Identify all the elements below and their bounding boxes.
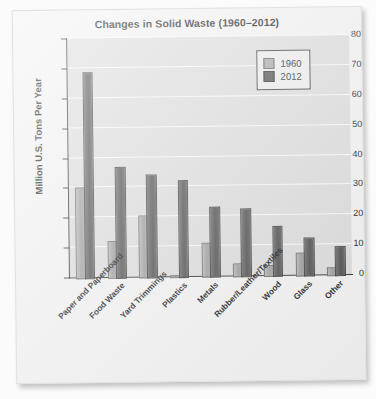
gridline <box>69 154 351 158</box>
legend-item-2012: 2012 <box>263 71 301 82</box>
y-axis-tick <box>61 38 67 39</box>
y-axis-ticks: 01020304050607080 <box>13 7 361 11</box>
gridline <box>69 183 351 187</box>
x-axis-category-labels: Paper and PaperboardFood WasteYard Trimm… <box>13 7 361 11</box>
bar-2012-yard-trimmings <box>146 174 158 278</box>
y-axis-tick <box>64 277 70 278</box>
y-axis-tick-label: 20 <box>317 208 363 219</box>
bars-layer <box>13 7 361 11</box>
y-axis-tick-label: 60 <box>316 89 362 100</box>
bar-2012-glass <box>304 237 315 276</box>
chart-title: Changes in Solid Waste (1960–2012) <box>13 15 361 31</box>
y-axis-tick <box>64 248 70 249</box>
y-axis-tick <box>62 98 68 99</box>
screenshot-root: Changes in Solid Waste (1960–2012) Milli… <box>0 0 376 399</box>
legend-label: 1960 <box>280 58 301 69</box>
y-axis-tick-label: 30 <box>317 178 363 189</box>
gridline <box>68 124 350 128</box>
bar-chart: Changes in Solid Waste (1960–2012) Milli… <box>13 7 366 383</box>
chart-legend: 19602012 <box>256 50 311 91</box>
y-axis-tick-label: 70 <box>315 59 361 70</box>
legend-label: 2012 <box>280 71 301 82</box>
y-axis-tick-label: 40 <box>316 148 362 159</box>
y-axis-tick <box>61 68 67 69</box>
gridline <box>68 94 350 98</box>
legend-item-1960: 1960 <box>263 58 301 69</box>
gridline <box>67 34 349 38</box>
legend-swatch-icon <box>263 71 274 82</box>
y-axis-tick <box>63 188 69 189</box>
bar-2012-other <box>335 246 346 276</box>
y-axis-label: Million U.S. Tons Per Year <box>32 41 45 231</box>
bar-2012-plastics <box>177 180 189 278</box>
bar-2012-metals <box>209 207 220 278</box>
y-axis-tick-label: 80 <box>315 29 361 40</box>
y-axis-tick <box>63 218 69 219</box>
y-axis-tick <box>63 158 69 159</box>
y-axis-tick-label: 50 <box>316 119 362 130</box>
bar-2012-rubber-leather-textiles <box>240 209 251 278</box>
legend-swatch-icon <box>263 58 274 69</box>
paper-card: Changes in Solid Waste (1960–2012) Milli… <box>12 6 367 384</box>
y-axis-tick <box>62 128 68 129</box>
